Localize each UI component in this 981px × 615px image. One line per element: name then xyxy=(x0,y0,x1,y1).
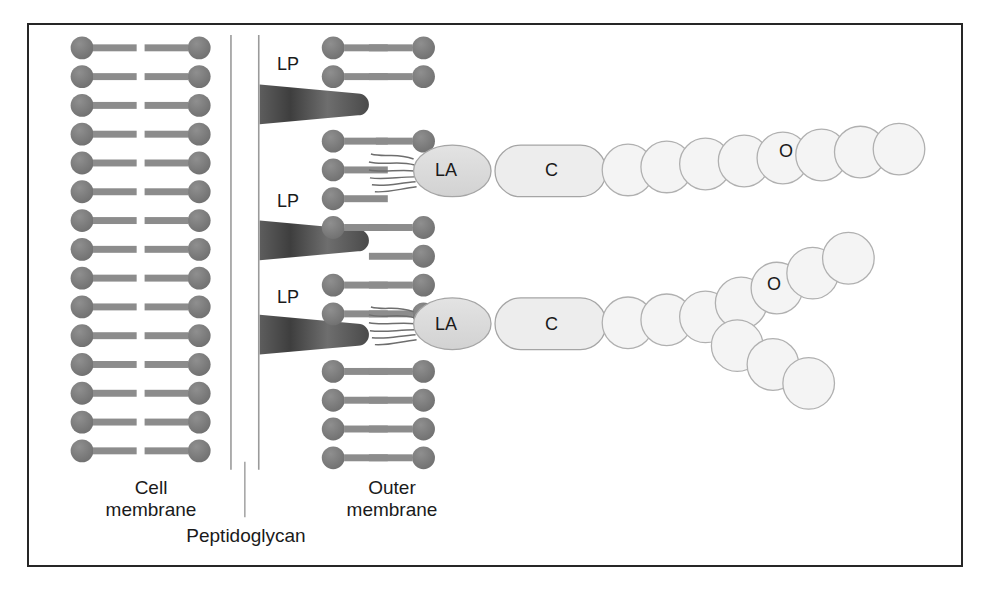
phospholipid xyxy=(145,238,211,261)
phospholipid xyxy=(369,446,435,469)
o-antigen-chain xyxy=(602,123,925,195)
cell-membrane-inner-leaflet xyxy=(71,36,137,462)
core-label: C xyxy=(545,160,558,181)
phospholipid xyxy=(145,94,211,117)
phospholipid xyxy=(71,123,137,146)
phospholipid xyxy=(369,418,435,441)
phospholipid xyxy=(376,130,435,153)
phospholipid xyxy=(322,187,388,210)
phospholipid xyxy=(71,180,137,203)
lipoprotein-label: LP xyxy=(277,191,299,212)
phospholipid xyxy=(71,152,137,175)
phospholipid xyxy=(71,65,137,88)
phospholipid xyxy=(145,36,211,59)
phospholipid xyxy=(71,324,137,347)
phospholipid xyxy=(71,295,137,318)
phospholipid xyxy=(71,353,137,376)
phospholipid xyxy=(369,274,435,297)
lipoprotein-label: LP xyxy=(277,54,299,75)
o-antigen-chain-upper-arm xyxy=(715,232,874,328)
cell-membrane-bilayer xyxy=(71,36,211,462)
phospholipid xyxy=(145,267,211,290)
phospholipid xyxy=(145,152,211,175)
phospholipid xyxy=(145,65,211,88)
outer-membrane-outer-leaflet xyxy=(369,36,435,469)
phospholipid xyxy=(71,94,137,117)
phospholipid xyxy=(369,360,435,383)
phospholipid xyxy=(71,411,137,434)
peptidoglycan-label: Peptidoglycan xyxy=(151,525,341,547)
outer-membrane-label: Outer membrane xyxy=(307,477,477,521)
figure-frame: LP LP LP LA C O LA C O Cell membrane Out… xyxy=(27,23,963,567)
lipid-a-label: LA xyxy=(435,314,457,335)
phospholipid xyxy=(145,180,211,203)
phospholipid xyxy=(145,382,211,405)
phospholipid xyxy=(71,267,137,290)
core-label: C xyxy=(545,314,558,335)
phospholipid xyxy=(71,439,137,462)
phospholipid xyxy=(369,65,435,88)
phospholipid xyxy=(369,389,435,412)
figure-canvas: LP LP LP LA C O LA C O Cell membrane Out… xyxy=(0,0,981,615)
phospholipid xyxy=(71,238,137,261)
phospholipid xyxy=(145,295,211,318)
lipoprotein-wedge xyxy=(260,315,369,355)
phospholipid xyxy=(71,36,137,59)
phospholipid xyxy=(145,324,211,347)
phospholipid xyxy=(145,411,211,434)
o-antigen-label: O xyxy=(767,274,781,295)
cell-membrane-label: Cell membrane xyxy=(71,477,231,521)
lipoprotein-wedge xyxy=(260,85,369,125)
lipoprotein-label: LP xyxy=(277,287,299,308)
phospholipid xyxy=(145,209,211,232)
phospholipid xyxy=(71,382,137,405)
phospholipid xyxy=(145,353,211,376)
o-antigen-chain-lower-arm xyxy=(711,320,834,409)
phospholipid xyxy=(145,123,211,146)
phospholipid xyxy=(369,245,435,268)
phospholipid xyxy=(71,209,137,232)
phospholipid xyxy=(369,216,435,239)
phospholipid xyxy=(145,439,211,462)
o-antigen-label: O xyxy=(779,141,793,162)
cell-membrane-outer-leaflet xyxy=(145,36,211,462)
peptidoglycan-layer xyxy=(231,35,259,517)
lipid-a-label: LA xyxy=(435,160,457,181)
phospholipid xyxy=(369,36,435,59)
